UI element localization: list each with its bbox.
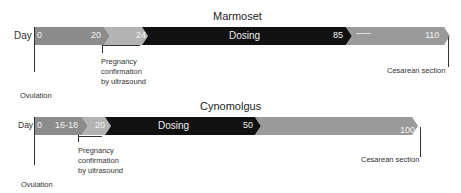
cyno-day-label: Day [18,120,33,130]
marmoset-day-0: 0 [37,30,42,40]
cyno-title: Cynomolgus [200,100,261,112]
marmoset-title: Marmoset [213,10,262,22]
marmoset-day-110: 110 [425,30,439,40]
cyno-day-100: 100 [400,125,415,135]
cyno-cesarean-label: Cesarean section [361,155,419,165]
marmoset-day-24: 24 [136,30,146,40]
marmoset-confirm-tick [102,45,103,53]
cyno-phase-post [255,117,418,135]
marmoset-dash: ------- [356,28,370,38]
marmoset-confirm-bracket [102,45,140,46]
cyno-dosing-label: Dosing [158,120,189,131]
cyno-ovulation-label: Ovulation [21,180,53,190]
marmoset-cesarean-line [448,37,449,67]
marmoset-cesarean-label: Cesarean section [387,66,445,76]
marmoset-day-20: 20 [91,30,101,40]
cyno-ovulation-line [34,117,35,165]
marmoset-day-85: 85 [333,30,343,40]
marmoset-dosing-label: Dosing [229,30,260,41]
cyno-pregnancy-note: Pregnancy confirmation by ultrasound [78,146,123,176]
marmoset-pregnancy-note: Pregnancy confirmation by ultrasound [101,57,146,87]
cyno-day-16-18: 16-18 [55,120,78,130]
marmoset-ovulation-label: Ovulation [20,91,52,101]
marmoset-ovulation-line [34,27,35,72]
cyno-day-50: 50 [243,120,253,130]
cyno-day-0: 0 [37,120,42,130]
marmoset-day-label: Day [14,30,32,41]
cyno-day-20: 20 [95,120,105,130]
cyno-confirm-bracket [78,136,102,137]
cyno-cesarean-line [420,127,421,157]
